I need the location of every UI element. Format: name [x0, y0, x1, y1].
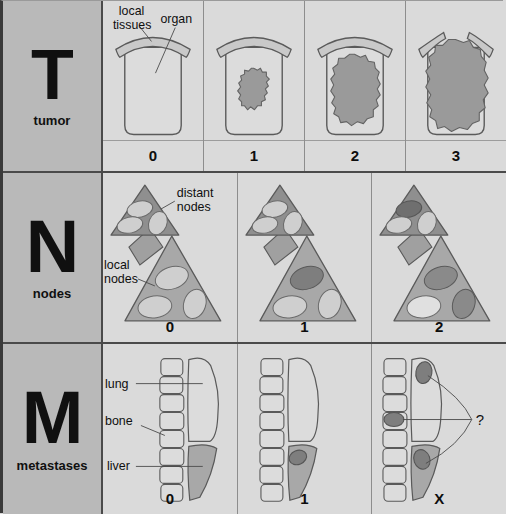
label-local-nodes-line2: nodes [104, 272, 138, 286]
metastases-x-illustration: ? [372, 344, 506, 514]
label-local-nodes-line1: local [104, 258, 130, 272]
stage-number-M1: 1 [238, 490, 372, 507]
divider [406, 140, 506, 141]
row-letter-M: M [22, 385, 83, 452]
row-label-metastases: M metastases [3, 344, 103, 514]
panel-metastases-x: ? X [372, 344, 506, 514]
stage-number-N2: 2 [372, 318, 506, 335]
divider [305, 140, 405, 141]
panel-metastases-0: lung bone liver 0 [103, 344, 238, 514]
row-metastases: M metastases [3, 344, 506, 514]
nodes-panels: distant nodes local nodes 0 [103, 173, 506, 342]
label-bone: bone [105, 414, 133, 428]
row-nodes: N nodes [3, 171, 506, 344]
label-local-tissues-line2: tissues [113, 18, 151, 32]
row-letter-N: N [26, 214, 78, 281]
panel-tumor-1: 1 [204, 1, 305, 171]
label-local-tissues-line1: local [119, 4, 144, 18]
metastases-1-illustration [238, 344, 372, 514]
row-name-nodes: nodes [33, 286, 71, 301]
nodes-1-illustration [238, 173, 372, 342]
panel-tumor-3: 3 [406, 1, 506, 171]
row-tumor: T tumor local tissues organ [3, 1, 506, 171]
metastases-0-illustration: lung bone liver [103, 344, 237, 514]
row-name-tumor: tumor [34, 113, 71, 128]
label-organ: organ [160, 12, 192, 26]
nodes-0-illustration: distant nodes local nodes [103, 173, 237, 342]
row-name-metastases: metastases [17, 458, 88, 473]
divider [103, 140, 203, 141]
label-distant-nodes-line1: distant [177, 186, 214, 200]
panel-nodes-2: 2 [372, 173, 506, 342]
stage-number-T2: 2 [305, 147, 405, 164]
label-question-mark: ? [476, 411, 484, 428]
row-letter-T: T [31, 44, 73, 107]
tumor-2-illustration [305, 1, 405, 171]
label-liver: liver [107, 459, 130, 473]
label-lung: lung [105, 377, 129, 391]
stage-number-MX: X [372, 490, 506, 507]
divider [204, 140, 304, 141]
stage-number-M0: 0 [103, 490, 237, 507]
tumor-panels: local tissues organ 0 [103, 1, 506, 171]
metastases-panels: lung bone liver 0 [103, 344, 506, 514]
row-label-nodes: N nodes [3, 173, 103, 342]
panel-metastases-1: 1 [238, 344, 373, 514]
tumor-1-illustration [204, 1, 304, 171]
nodes-2-illustration [372, 173, 506, 342]
stage-number-T1: 1 [204, 147, 304, 164]
row-label-tumor: T tumor [3, 1, 103, 171]
stage-number-T3: 3 [406, 147, 506, 164]
label-distant-nodes-line2: nodes [177, 200, 211, 214]
panel-tumor-0: local tissues organ 0 [103, 1, 204, 171]
panel-nodes-1: 1 [238, 173, 373, 342]
stage-number-N0: 0 [103, 318, 237, 335]
panel-tumor-2: 2 [305, 1, 406, 171]
tumor-3-illustration [406, 1, 506, 171]
tumor-0-illustration: local tissues organ [103, 1, 203, 171]
stage-number-T0: 0 [103, 147, 203, 164]
stage-number-N1: 1 [238, 318, 372, 335]
panel-nodes-0: distant nodes local nodes 0 [103, 173, 238, 342]
